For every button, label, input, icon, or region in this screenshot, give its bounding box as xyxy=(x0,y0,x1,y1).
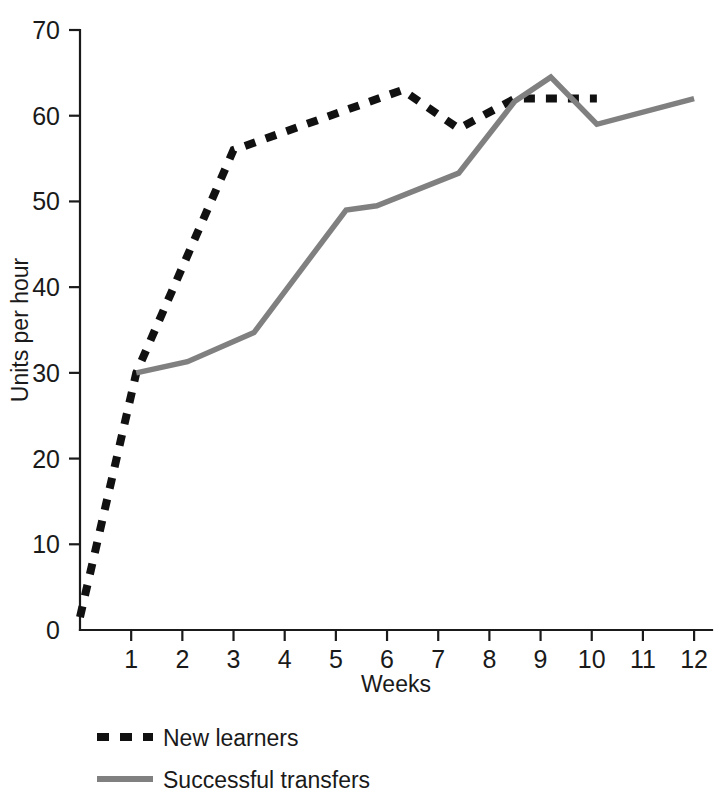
y-tick-label: 70 xyxy=(32,16,60,44)
chart-container: 010203040506070 123456789101112 Units pe… xyxy=(0,0,722,801)
legend-label: Successful transfers xyxy=(163,767,370,793)
y-tick-label: 60 xyxy=(32,102,60,130)
y-tick-label: 50 xyxy=(32,187,60,215)
line-chart: 010203040506070 123456789101112 Units pe… xyxy=(0,0,722,801)
x-axis-title: Weeks xyxy=(361,671,431,697)
y-tick-label: 40 xyxy=(32,273,60,301)
x-tick-label: 12 xyxy=(680,645,708,673)
y-tick-label: 0 xyxy=(46,616,60,644)
x-tick-label: 9 xyxy=(534,645,548,673)
legend-label: New learners xyxy=(163,725,299,751)
x-tick-label: 7 xyxy=(431,645,445,673)
x-tick-label: 8 xyxy=(482,645,496,673)
x-tick-label: 6 xyxy=(380,645,394,673)
y-tick-label: 30 xyxy=(32,359,60,387)
x-tick-label: 1 xyxy=(124,645,138,673)
y-tick-label: 20 xyxy=(32,445,60,473)
y-axis-title: Units per hour xyxy=(7,257,33,402)
x-tick-label: 10 xyxy=(578,645,606,673)
x-tick-label: 11 xyxy=(630,645,656,673)
x-tick-label: 3 xyxy=(227,645,241,673)
x-tick-label: 2 xyxy=(175,645,189,673)
x-tick-label: 4 xyxy=(278,645,292,673)
y-tick-label: 10 xyxy=(32,530,60,558)
x-tick-label: 5 xyxy=(329,645,343,673)
